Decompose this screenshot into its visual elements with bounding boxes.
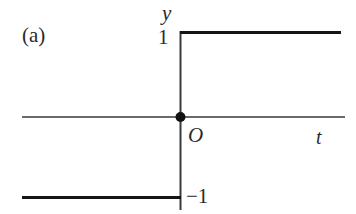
origin-point-marker [176,112,186,122]
function-plot-svg [0,0,356,214]
figure-container: (a) y 1 O −1 t [0,0,356,214]
panel-label: (a) [22,25,45,46]
t-axis-label: t [316,127,322,147]
y-axis-label: y [162,3,171,24]
y-tick-label-positive-one: 1 [158,27,169,48]
y-tick-label-negative-one: −1 [186,186,208,207]
origin-label: O [188,125,203,146]
